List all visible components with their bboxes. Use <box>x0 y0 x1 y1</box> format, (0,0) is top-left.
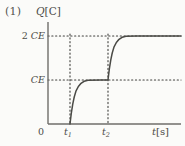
plot-area <box>0 0 185 146</box>
y-tick-2ce-symbol: CE <box>31 30 45 41</box>
x-tick-label-t1: t1 <box>64 126 72 139</box>
y-tick-label-ce: CE <box>2 74 45 85</box>
y-tick-ce-symbol: CE <box>31 74 45 85</box>
figure-container: (1) Q[C] t[s] 2 CE CE 0 t1 t2 <box>0 0 185 146</box>
x-tick-t1-subscript: 1 <box>68 131 72 139</box>
x-tick-label-t2: t2 <box>102 126 110 139</box>
x-tick-t2-subscript: 2 <box>106 131 110 139</box>
y-tick-label-2ce: 2 CE <box>2 30 45 41</box>
y-tick-2ce-prefix: 2 <box>22 30 31 41</box>
x-tick-label-origin: 0 <box>38 126 44 137</box>
